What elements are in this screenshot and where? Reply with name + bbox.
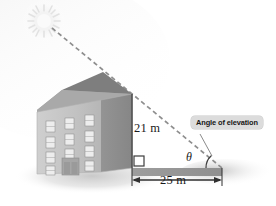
angle-of-elevation-callout: Angle of elevation [191, 116, 263, 129]
diagram-svg [0, 0, 276, 206]
height-label: 21 m [134, 122, 160, 135]
angle-of-elevation-callout-label: Angle of elevation [196, 119, 258, 126]
building-door [62, 158, 79, 175]
sun-icon [22, 0, 66, 43]
base-label: 25 m [160, 174, 186, 187]
angle-symbol-label: θ [186, 151, 192, 163]
figure-canvas: 21 m 25 m θ Angle of elevation [0, 0, 276, 206]
